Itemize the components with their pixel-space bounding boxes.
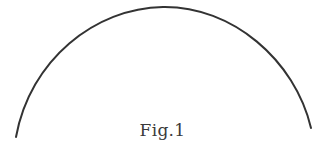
- figure-caption: Fig.1: [0, 120, 321, 140]
- figure: Fig.1: [0, 0, 321, 158]
- arc-curve: [16, 7, 311, 137]
